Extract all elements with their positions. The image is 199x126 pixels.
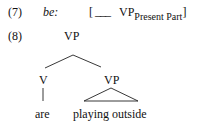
- tree-branches: [0, 0, 199, 126]
